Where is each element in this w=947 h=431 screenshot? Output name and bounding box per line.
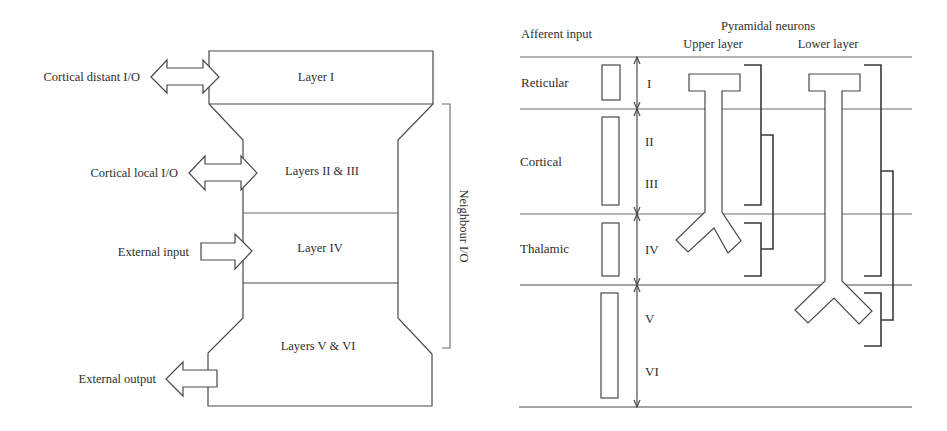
numeral-i: I [647,76,651,91]
cortical-label: Cortical [520,154,562,169]
thalamic-label: Thalamic [520,241,569,256]
cortical-local-io-label: Cortical local I/O [91,166,178,180]
afferent-pyramidal-diagram: Afferent input Pyramidal neurons Upper l… [519,19,912,407]
neighbour-io-label: Neighbour I/O [457,189,471,262]
layer-iv-label: Layer IV [297,241,342,255]
external-input-label: External input [118,245,190,259]
lower-neuron-soma-bracket [864,293,881,346]
lower-layer-header: Lower layer [798,37,860,51]
numeral-vi: VI [645,364,659,379]
cortical-distant-io-label: Cortical distant I/O [43,70,140,84]
upper-layer-header: Upper layer [683,37,743,51]
right-arrow-icon [201,234,252,269]
reticular-input-bar [602,65,620,100]
pyramidal-neurons-header: Pyramidal neurons [721,19,815,33]
afferent-input-header: Afferent input [521,27,592,41]
upper-neuron-dendrite-bracket [744,65,761,205]
lower-pyramidal-neuron [795,74,872,324]
reticular-label: Reticular [521,75,569,90]
thalamic-input-bar [602,223,619,276]
double-arrow-icon [189,156,257,190]
numeral-ii: II [645,134,654,149]
upper-neuron-soma-bracket [744,223,761,276]
layers-v-vi-label: Layers V & VI [281,339,356,353]
layers-ii-iii-label: Layers II & III [285,164,359,178]
deep-input-bar [601,293,618,398]
neighbour-bracket [442,104,450,348]
left-arrow-icon [166,362,217,396]
layer-i-label: Layer I [298,70,334,84]
upper-neuron-combined-bracket [761,135,773,249]
lower-neuron-dendrite-bracket [864,65,881,276]
cortex-diagram: Layer I Layers II & III Layer IV Layers … [0,0,947,431]
numeral-v: V [645,311,655,326]
upper-pyramidal-neuron [676,74,741,253]
numeral-iii: III [645,176,658,191]
cortical-input-bar [602,117,619,205]
cortical-column-diagram: Layer I Layers II & III Layer IV Layers … [43,51,471,406]
external-output-label: External output [79,372,157,386]
lower-neuron-combined-bracket [881,171,893,320]
numeral-iv: IV [645,242,659,257]
